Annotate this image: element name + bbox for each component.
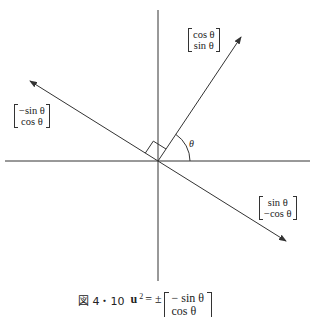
vector-u2-down-label: sin θ −cos θ	[259, 196, 297, 220]
u2-up-top: −sin θ	[19, 105, 45, 116]
vector-u1-arrow	[158, 37, 241, 161]
equals-plus-minus: = ±	[145, 292, 161, 307]
right-bracket	[207, 292, 212, 317]
vector-symbol: u	[131, 292, 138, 307]
caption-equation: u2 = ± − sin θ cos θ	[131, 292, 213, 318]
u1-bottom: sin θ	[194, 40, 214, 51]
vector-subscript: 2	[139, 292, 143, 301]
caption-matrix-bottom: cos θ	[172, 305, 205, 318]
right-bracket	[216, 28, 220, 52]
right-bracket	[293, 196, 297, 220]
u2-down-bottom: −cos θ	[264, 208, 292, 219]
u2-up-bottom: cos θ	[21, 116, 43, 127]
right-angle-mark	[145, 141, 166, 153]
u1-top: cos θ	[193, 29, 215, 40]
vector-u1-label: cos θ sin θ	[188, 28, 220, 52]
figure-number: 図 4・10	[78, 292, 125, 308]
caption-matrix: − sin θ cos θ	[164, 292, 213, 318]
right-bracket	[46, 104, 50, 128]
angle-arc	[176, 134, 190, 161]
u2-down-top: sin θ	[268, 197, 288, 208]
angle-theta-label: θ	[189, 138, 194, 149]
figure-caption: 図 4・10 u2 = ± − sin θ cos θ	[78, 292, 212, 318]
vector-u2-up-label: −sin θ cos θ	[14, 104, 50, 128]
